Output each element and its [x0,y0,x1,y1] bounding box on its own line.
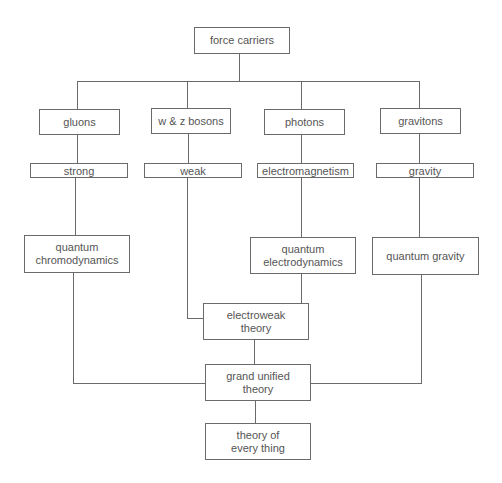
node-weak: weak [144,163,242,178]
node-force-carriers: force carriers [194,27,290,54]
node-w-z-bosons: w & z bosons [151,108,231,134]
node-electroweak-theory: electroweak theory [203,303,309,340]
node-gravity: gravity [376,163,474,178]
node-quantum-chromodynamics: quantum chromodynamics [24,235,130,273]
node-quantum-gravity: quantum gravity [372,237,479,275]
node-electromagnetism: electromagnetism [257,163,354,178]
force-carriers-diagram: force carriers gluons w & z bosons photo… [0,0,502,483]
node-strong: strong [30,163,128,178]
node-gluons: gluons [39,109,120,135]
node-gravitons: gravitons [380,108,461,134]
node-grand-unified-theory: grand unified theory [205,364,311,401]
node-theory-of-everything: theory of every thing [205,423,311,460]
node-quantum-electrodynamics: quantum electrodynamics [250,237,356,274]
node-photons: photons [264,109,345,135]
